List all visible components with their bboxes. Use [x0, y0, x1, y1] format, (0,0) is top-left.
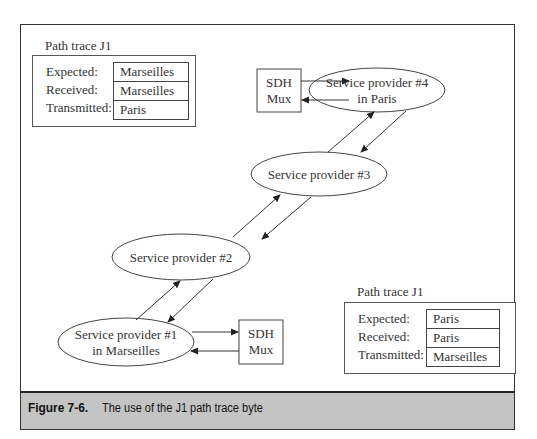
service-provider-3-node: Service provider #3	[251, 152, 387, 196]
trace-right-label-transmitted: Transmitted:	[358, 347, 424, 363]
trace-right-label-received: Received:	[358, 329, 410, 345]
trace-right-value-transmitted: Marseilles	[427, 348, 499, 366]
trace-right-label-expected: Expected:	[358, 311, 410, 327]
trace-left-label-received: Received:	[46, 82, 98, 98]
service-provider-4-node: Service provider #4 in Paris	[309, 68, 445, 112]
mux-bottom-line1: SDH	[248, 326, 274, 341]
figure-caption-bar	[20, 391, 515, 430]
sp3-label: Service provider #3	[268, 167, 371, 182]
figure-number: Figure 7-6.	[28, 400, 88, 415]
service-provider-1-node: Service provider #1 in Marseilles	[58, 318, 194, 366]
mux-top-line1: SDH	[266, 75, 292, 90]
sdh-mux-top: SDH Mux	[257, 69, 301, 112]
trace-left-label-expected: Expected:	[46, 64, 98, 80]
sp2-label: Service provider #2	[130, 250, 233, 265]
trace-left-value-transmitted: Paris	[114, 101, 188, 119]
trace-right-title: Path trace J1	[357, 284, 423, 300]
sp4-line1: Service provider #4	[326, 75, 429, 90]
mux-bottom-line2: Mux	[249, 342, 274, 357]
trace-right-value-received: Paris	[427, 329, 499, 348]
service-provider-2-node: Service provider #2	[112, 234, 250, 280]
trace-left-title: Path trace J1	[45, 38, 111, 54]
trace-left-values: Marseilles Marseilles Paris	[113, 62, 189, 120]
trace-left-box: Expected: Received: Transmitted: Marseil…	[32, 55, 196, 127]
sp1-line1: Service provider #1	[75, 327, 178, 342]
trace-left-value-received: Marseilles	[114, 82, 188, 101]
trace-right-box: Expected: Received: Transmitted: Paris P…	[344, 302, 516, 374]
arrow-sp3-to-sp2	[262, 197, 311, 239]
sp4-line2: in Paris	[357, 91, 396, 106]
trace-left-value-expected: Marseilles	[114, 63, 188, 82]
sdh-mux-bottom: SDH Mux	[239, 320, 283, 364]
figure-caption: The use of the J1 path trace byte	[102, 401, 263, 415]
trace-right-values: Paris Paris Marseilles	[426, 309, 500, 367]
sp1-line2: in Marseilles	[92, 343, 160, 358]
trace-right-value-expected: Paris	[427, 310, 499, 329]
arrow-sp2-to-sp3	[233, 195, 280, 237]
trace-left-label-transmitted: Transmitted:	[46, 100, 112, 116]
mux-top-line2: Mux	[267, 91, 292, 106]
arrow-sp1-to-sp2	[136, 281, 180, 320]
